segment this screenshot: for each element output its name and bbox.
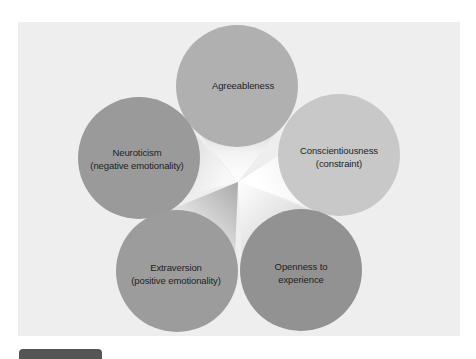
label-neuroticism: Neuroticism (negative emotionality) [77,147,197,172]
label-openness-line1: Openness to [241,261,361,274]
figure-caption-tab [19,349,102,359]
label-neuroticism-line1: Neuroticism [77,147,197,160]
label-extraversion: Extraversion (positive emotionality) [116,262,236,287]
label-extraversion-line2: (positive emotionality) [116,274,236,287]
label-openness-line2: experience [241,273,361,286]
label-agreeableness: Agreeableness [183,80,303,93]
label-conscientiousness-line2: (constraint) [279,157,399,170]
label-agreeableness-line1: Agreeableness [183,80,303,93]
label-conscientiousness: Conscientiousness (constraint) [279,145,399,170]
label-neuroticism-line2: (negative emotionality) [77,159,197,172]
label-conscientiousness-line1: Conscientiousness [279,145,399,158]
label-extraversion-line1: Extraversion [116,262,236,275]
label-openness: Openness to experience [241,261,361,286]
